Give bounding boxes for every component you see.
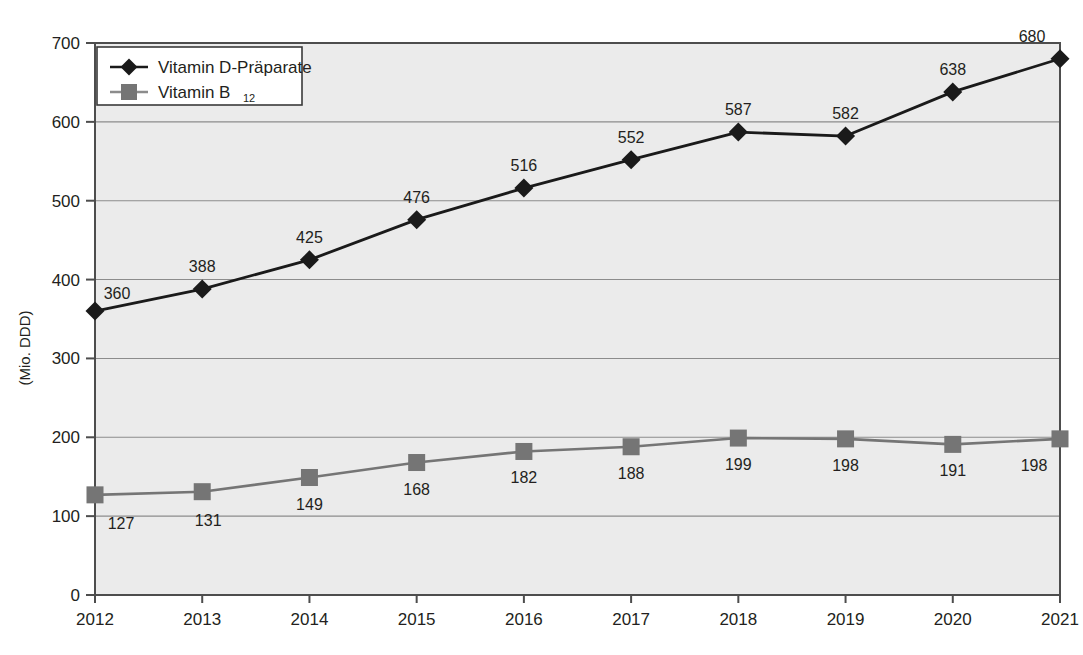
data-point-marker[interactable] <box>944 436 961 453</box>
data-point-label: 638 <box>939 61 966 78</box>
data-point-label: 388 <box>189 258 216 275</box>
x-axis-tick-label: 2014 <box>291 610 329 629</box>
legend-label-vitamin-d: Vitamin D-Präparate <box>158 58 312 77</box>
y-axis-tick-label: 700 <box>52 34 80 53</box>
data-point-marker[interactable] <box>623 438 640 455</box>
x-axis-tick-label: 2019 <box>827 610 865 629</box>
x-axis-tick-label: 2020 <box>934 610 972 629</box>
x-axis-tick-label: 2018 <box>719 610 757 629</box>
x-axis-tick-label: 2015 <box>398 610 436 629</box>
legend-label-vitamin-b12-subscript: 12 <box>243 92 255 104</box>
data-point-label: 198 <box>832 457 859 474</box>
x-axis-tick-label: 2012 <box>76 610 114 629</box>
data-point-label: 425 <box>296 229 323 246</box>
chart-container: 0100200300400500600700 20122013201420152… <box>0 0 1083 655</box>
data-point-label: 552 <box>618 129 645 146</box>
plot-area-background <box>95 43 1060 595</box>
data-point-label: 191 <box>939 462 966 479</box>
y-axis-title: (Mio. DDD) <box>16 311 33 386</box>
data-point-label: 360 <box>104 285 131 302</box>
data-point-marker[interactable] <box>515 443 532 460</box>
y-axis-tick-label: 300 <box>52 349 80 368</box>
data-point-label: 587 <box>725 101 752 118</box>
chart-legend: Vitamin D-Präparate Vitamin B 12 <box>97 47 312 105</box>
data-point-marker[interactable] <box>408 454 425 471</box>
x-axis-tick-label: 2017 <box>612 610 650 629</box>
data-point-marker[interactable] <box>87 486 104 503</box>
data-point-label: 188 <box>618 465 645 482</box>
legend-label-vitamin-b12: Vitamin B <box>158 83 230 102</box>
x-axis-tick-label: 2013 <box>183 610 221 629</box>
data-point-marker[interactable] <box>837 430 854 447</box>
data-point-label: 582 <box>832 105 859 122</box>
square-marker-icon <box>121 84 137 100</box>
y-axis-tick-label: 600 <box>52 113 80 132</box>
data-point-marker[interactable] <box>194 483 211 500</box>
data-point-label: 182 <box>511 469 538 486</box>
data-point-marker[interactable] <box>301 469 318 486</box>
data-point-label: 168 <box>403 481 430 498</box>
data-point-label: 131 <box>195 512 222 529</box>
data-point-marker[interactable] <box>1052 430 1069 447</box>
data-point-label: 476 <box>403 189 430 206</box>
data-point-marker[interactable] <box>730 430 747 447</box>
x-axis-tick-label: 2021 <box>1041 610 1079 629</box>
y-axis-tick-label: 100 <box>52 507 80 526</box>
data-point-label: 127 <box>108 515 135 532</box>
y-axis-tick-label: 200 <box>52 428 80 447</box>
y-axis-tick-label: 500 <box>52 192 80 211</box>
line-chart: 0100200300400500600700 20122013201420152… <box>0 0 1083 655</box>
y-axis-tick-label: 0 <box>71 586 80 605</box>
data-point-label: 149 <box>296 496 323 513</box>
data-point-label: 680 <box>1019 28 1046 45</box>
data-point-label: 516 <box>511 157 538 174</box>
data-point-label: 199 <box>725 456 752 473</box>
x-axis-tick-label: 2016 <box>505 610 543 629</box>
y-axis-tick-label: 400 <box>52 271 80 290</box>
data-point-label: 198 <box>1021 457 1048 474</box>
